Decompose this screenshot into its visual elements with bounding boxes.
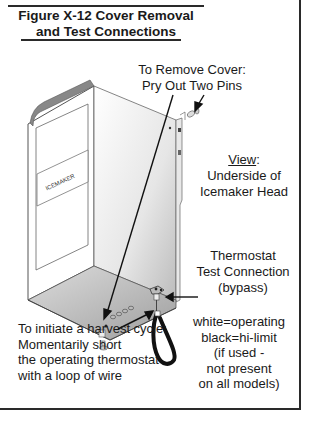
thermostat-line-1: Thermostat — [190, 248, 296, 264]
view-line-2: Underside of — [194, 168, 294, 184]
remove-cover-callout: To Remove Cover: Pry Out Two Pins — [132, 62, 252, 94]
remove-cover-line-2: Pry Out Two Pins — [132, 78, 252, 94]
wire-colors-line-3: (if used - — [184, 345, 294, 361]
harvest-line-2: Momentarily short — [18, 337, 167, 353]
wire-colors-line-4: not present — [184, 361, 294, 377]
harvest-line-1: To initiate a harvest cycle: — [18, 321, 167, 337]
view-label-colon: : — [256, 152, 260, 167]
harvest-callout: To initiate a harvest cycle: Momentarily… — [18, 321, 167, 383]
side-face — [94, 86, 176, 300]
wire-colors-line-1: white=operating — [184, 314, 294, 330]
wire-colors-callout: white=operating black=hi-limit (if used … — [184, 314, 294, 392]
view-label: View — [228, 152, 256, 167]
thermostat-line-3: (bypass) — [190, 280, 296, 296]
view-callout: View: Underside of Icemaker Head — [194, 152, 294, 200]
wire-colors-line-5: on all models) — [184, 376, 294, 392]
harvest-line-3: the operating thermostat — [18, 352, 167, 368]
harvest-line-4: with a loop of wire — [18, 368, 167, 384]
remove-cover-line-1: To Remove Cover: — [132, 62, 252, 78]
side-flange — [176, 118, 182, 302]
thermostat-line-2: Test Connection — [190, 264, 296, 280]
thermostat-callout: Thermostat Test Connection (bypass) — [190, 248, 296, 296]
view-line-3: Icemaker Head — [194, 184, 294, 200]
wire-colors-line-2: black=hi-limit — [184, 330, 294, 346]
